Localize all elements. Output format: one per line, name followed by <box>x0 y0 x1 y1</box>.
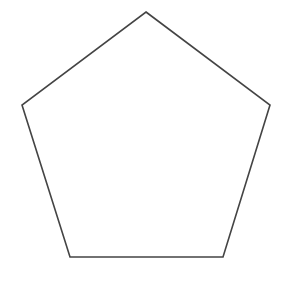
pentagon-diagram <box>0 0 285 287</box>
pentagon-shape <box>22 12 270 257</box>
diagram-canvas <box>0 0 285 287</box>
